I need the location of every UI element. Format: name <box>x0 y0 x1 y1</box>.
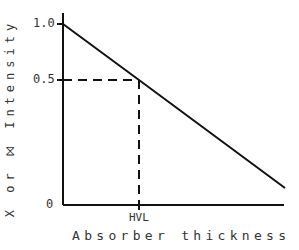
tick-label-0-5: 0.5 <box>33 72 55 86</box>
tick-label-hvl: HVL <box>129 211 149 224</box>
chart-canvas <box>0 0 299 250</box>
intensity-curve <box>63 24 285 188</box>
y-axis-label: X or ⨝ Intensity <box>3 19 17 217</box>
tick-label-1-0: 1.0 <box>33 16 55 30</box>
x-axis-label: Absorber thickness <box>72 228 290 243</box>
tick-label-0: 0 <box>46 197 53 211</box>
